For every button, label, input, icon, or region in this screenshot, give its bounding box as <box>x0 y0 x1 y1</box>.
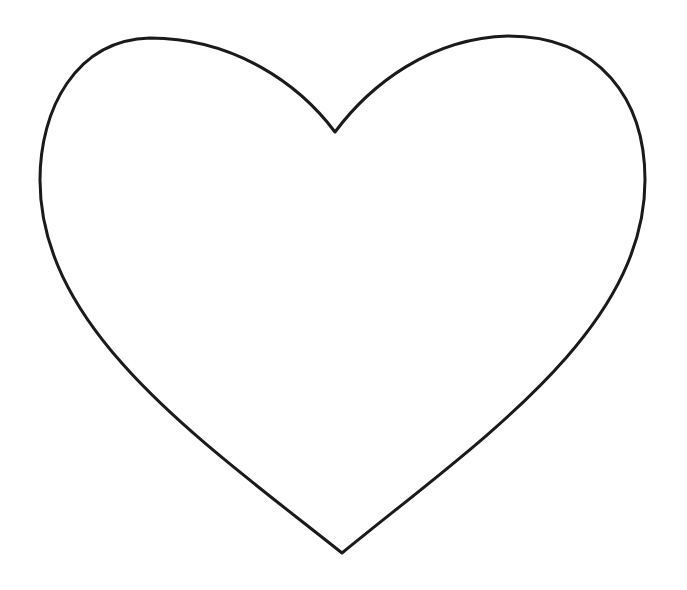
heart-path <box>40 36 645 553</box>
heart-outline-icon <box>0 0 687 590</box>
heart-canvas <box>0 0 687 590</box>
